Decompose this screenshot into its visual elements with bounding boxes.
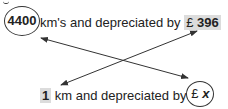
arrow-1-to-396 <box>61 31 197 85</box>
arrow-4400-to-x <box>41 38 188 78</box>
arrows-overlay <box>0 0 228 109</box>
